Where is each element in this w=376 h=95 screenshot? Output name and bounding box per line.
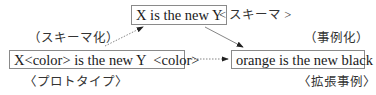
prototype-node: X<color> is the new Y <color> bbox=[9, 50, 185, 69]
schematization-label: （スキーマ化） bbox=[28, 31, 119, 45]
instantiation-label: （事例化） bbox=[304, 31, 369, 45]
instance-node: orange is the new black bbox=[231, 50, 365, 69]
instance-node-text: orange is the new black bbox=[236, 52, 373, 68]
schema-node: X is the new Y bbox=[131, 5, 227, 25]
instance-tag: 〈拡張事例〉 bbox=[298, 75, 376, 89]
prototype-node-text: X<color> is the new Y <color> bbox=[14, 52, 199, 68]
prototype-tag: 〈プロトタイプ〉 bbox=[24, 75, 128, 89]
instantiation-arrow bbox=[205, 27, 243, 47]
schema-tag: < スキーマ > bbox=[219, 8, 291, 22]
schema-node-text: X is the new Y bbox=[136, 7, 222, 23]
